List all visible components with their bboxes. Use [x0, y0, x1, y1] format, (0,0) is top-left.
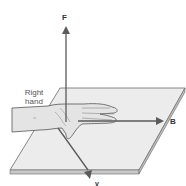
hand-label-line2: hand: [20, 97, 48, 106]
right-hand-label: Right hand: [20, 88, 48, 106]
force-label: F: [62, 14, 67, 22]
velocity-label: v: [95, 180, 99, 186]
hand-label-line1: Right: [20, 88, 48, 97]
field-label: B: [170, 118, 176, 126]
svg-text:ss: ss: [33, 116, 37, 120]
